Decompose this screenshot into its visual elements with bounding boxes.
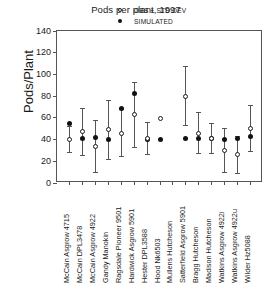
x-axis-label-text: Wilder Hz5088	[244, 235, 252, 283]
x-axis-label: Watkins Asgrow 4922i	[223, 183, 224, 283]
y-axis-tick-label: 0	[25, 179, 51, 188]
x-axis-label: McCain Asgrow 4715	[68, 183, 69, 283]
legend-label-obs: OBS ± STD DEV	[134, 5, 186, 16]
x-axis-label-text: Hardwick Asgrow 5901	[128, 209, 136, 283]
open-circle-icon	[118, 8, 122, 12]
x-axis-label-text: Mullens Hutcheson	[166, 221, 174, 283]
error-bar-cap	[145, 154, 150, 155]
error-bar-cap	[209, 123, 214, 124]
error-bar-cap	[196, 153, 201, 154]
y-axis-tick-label: 40	[25, 135, 51, 144]
x-axis-label: Bragg Hutcheson	[197, 183, 198, 283]
x-axis-label-text: McCain DPL3478	[76, 226, 84, 283]
filled-circle-icon	[118, 19, 122, 23]
data-point-simulated	[248, 134, 253, 139]
error-bar-cap	[80, 155, 85, 156]
data-point-simulated	[183, 136, 188, 141]
data-point-observed	[67, 137, 72, 142]
x-axis-label-text: Gandy Manokin	[102, 232, 110, 283]
x-axis-label: Ragsdale Pioneer 9501	[120, 183, 121, 283]
x-axis-label: McCain Asgrow 4922	[94, 183, 95, 283]
data-point-simulated	[119, 106, 124, 111]
x-axis-label: Wilder Hz5088	[249, 183, 250, 283]
error-bar-cap	[248, 105, 253, 106]
error-bar-cap	[106, 100, 111, 101]
error-bar-cap	[93, 172, 98, 173]
data-point-simulated	[222, 137, 227, 142]
y-axis-tick-label: 20	[25, 157, 51, 166]
error-bar-cap	[248, 151, 253, 152]
data-point-observed	[222, 148, 227, 153]
data-point-observed	[209, 136, 214, 141]
error-bar-cap	[119, 156, 124, 157]
error-bar-cap	[80, 108, 85, 109]
y-axis-tick-label: 60	[25, 113, 51, 122]
x-axis-label-text: Hood Nk6503	[154, 238, 162, 283]
x-axis-label-text: McCain Asgrow 4922	[89, 214, 97, 283]
y-axis-tick-label: 120	[25, 48, 51, 57]
legend-item-obs: OBS ± STD DEV	[118, 5, 204, 16]
error-bar-cap	[196, 112, 201, 113]
x-axis-label-text: Bragg Hutcheson	[192, 227, 200, 283]
data-point-observed	[183, 94, 188, 99]
error-bar-cap	[67, 126, 72, 127]
data-point-observed	[80, 129, 85, 134]
x-axis-label-text: McCain Asgrow 4715	[63, 214, 71, 283]
x-axis-label-text: Madison Hutcheson	[205, 219, 213, 284]
data-point-observed	[196, 131, 201, 136]
y-axis-tick	[53, 117, 57, 118]
data-point-simulated	[158, 137, 163, 142]
error-bar-cap	[209, 153, 214, 154]
error-bar-cap	[93, 120, 98, 121]
data-point-simulated	[106, 137, 111, 142]
error-bar-cap	[222, 172, 227, 173]
data-point-observed	[235, 152, 240, 157]
data-point-simulated	[235, 136, 240, 141]
x-axis-label: McCain DPL3478	[81, 183, 82, 283]
data-point-observed	[158, 116, 163, 121]
data-point-simulated	[80, 136, 85, 141]
y-axis-tick	[53, 31, 57, 32]
y-axis-tick-label: 80	[25, 92, 51, 101]
y-axis-tick	[53, 74, 57, 75]
plot-area: 020406080100120140	[56, 30, 262, 182]
data-point-simulated	[67, 121, 72, 126]
y-axis-tick	[53, 96, 57, 97]
error-bar-cap	[235, 173, 240, 174]
x-axis-label: Watkins Asgrow 4922u	[236, 183, 237, 283]
x-axis-label-text: Watkins Asgrow 4922u	[231, 209, 239, 283]
error-bar-cap	[132, 82, 137, 83]
y-axis-tick	[53, 52, 57, 53]
x-axis-label: Madison Hutcheson	[210, 183, 211, 283]
data-point-observed	[145, 136, 150, 141]
y-axis-tick-label: 140	[25, 27, 51, 36]
legend-label-simulated: SIMULATED	[134, 16, 173, 27]
data-point-observed	[93, 144, 98, 149]
plot-inner: 020406080100120140	[57, 31, 261, 181]
x-axis-label: Hardwick Asgrow 5901	[133, 183, 134, 283]
data-point-observed	[248, 126, 253, 131]
y-axis-tick-label: 100	[25, 70, 51, 79]
error-bar-cap	[183, 125, 188, 126]
chart-figure: Pods per plant, 1997 Pods/Plant 02040608…	[0, 0, 272, 290]
data-point-observed	[119, 131, 124, 136]
data-point-observed	[132, 112, 137, 117]
x-axis-label-text: Hester DPL3588	[141, 229, 149, 283]
error-bar-cap	[145, 122, 150, 123]
data-point-simulated	[93, 135, 98, 140]
x-axis-label: Hood Nk6503	[159, 183, 160, 283]
x-axis-label-text: Ragsdale Pioneer 9501	[115, 207, 123, 283]
error-bar-cap	[183, 66, 188, 67]
error-bar-cap	[106, 159, 111, 160]
y-axis-tick	[53, 139, 57, 140]
error-bar-cap	[222, 128, 227, 129]
chart-legend: OBS ± STD DEV SIMULATED	[118, 5, 204, 27]
x-axis-label: Satterfield Asgrow 5901	[184, 183, 185, 283]
data-point-simulated	[132, 91, 137, 96]
error-bar-cap	[132, 147, 137, 148]
legend-item-simulated: SIMULATED	[118, 16, 204, 27]
data-point-simulated	[196, 136, 201, 141]
data-point-observed	[106, 127, 111, 132]
x-axis-label: Gandy Manokin	[107, 183, 108, 283]
x-axis-label-text: Satterfield Asgrow 5901	[179, 206, 187, 283]
